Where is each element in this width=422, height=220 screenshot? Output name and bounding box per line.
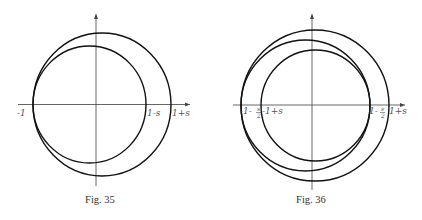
label-1-plus-s: 1+s (172, 108, 190, 118)
svg-text:2: 2 (380, 112, 385, 119)
figure-35: -1 1-s 1+s Fig. 35 (17, 14, 190, 205)
svg-text:s: s (257, 105, 260, 112)
label-1-minus-s-half: 1- s 2 (369, 105, 385, 119)
diagram-canvas: -1 1-s 1+s Fig. 35 -1- s 2 -1+s 1- s 2 1… (0, 0, 422, 220)
figure-36: -1- s 2 -1+s 1- s 2 1+s Fig. 36 (233, 14, 407, 205)
svg-text:-1-: -1- (240, 106, 252, 116)
svg-text:2: 2 (256, 112, 261, 119)
caption-fig-35: Fig. 35 (85, 194, 115, 205)
label-minus-1: -1 (17, 108, 26, 118)
label-1-plus-s-36: 1+s (389, 106, 407, 116)
label-1-minus-s: 1-s (147, 108, 161, 118)
label-minus-1-minus-s-half: -1- s 2 (240, 105, 261, 119)
caption-fig-36: Fig. 36 (296, 194, 326, 205)
svg-text:s: s (381, 105, 384, 112)
label-minus-1-plus-s: -1+s (262, 106, 283, 116)
svg-text:1-: 1- (369, 106, 378, 116)
